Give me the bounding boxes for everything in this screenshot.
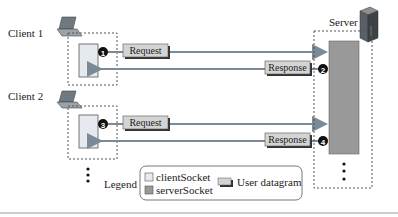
client-2-label: Client 2 [8, 90, 43, 102]
step-3-number: 3 [101, 121, 106, 130]
server-socket-swatch [145, 186, 153, 194]
legend-title: Legend [104, 178, 137, 190]
client-2-socket [79, 115, 98, 148]
client-1-label: Client 1 [8, 27, 43, 39]
more-clients-ellipsis [86, 167, 89, 182]
legend-client-socket-label: clientSocket [156, 171, 210, 183]
server-label: Server [329, 16, 358, 28]
legend-server-socket-label: serverSocket [156, 184, 213, 196]
server-icon [360, 7, 378, 42]
laptop-icon [57, 91, 82, 108]
client-socket-swatch [145, 173, 153, 181]
diagram-canvas: Client 1 1 Request Response 2 Client 2 3… [0, 0, 398, 217]
step-2-number: 2 [321, 66, 326, 75]
response-label-1: Response [268, 62, 307, 73]
step-4-number: 4 [321, 138, 326, 147]
client-1-socket [79, 44, 98, 77]
step-1-number: 1 [101, 49, 106, 58]
user-datagram-swatch [218, 178, 231, 185]
more-server-ellipsis [342, 162, 345, 180]
server-socket [329, 41, 359, 154]
legend-user-datagram-label: User datagram [237, 176, 302, 188]
response-label-2: Response [268, 134, 307, 145]
request-label-2: Request [129, 117, 161, 128]
request-label-1: Request [129, 45, 161, 56]
